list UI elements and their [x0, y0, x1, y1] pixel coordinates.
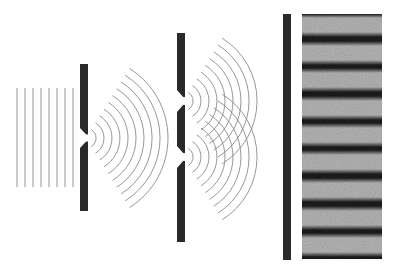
double-slit-barrier: [177, 33, 186, 242]
circular-wavefront: [193, 142, 202, 173]
slit-opening: [177, 97, 186, 105]
circular-wavefront: [91, 130, 96, 147]
interference-fringe-pattern: [302, 14, 382, 259]
single-slit-wavefronts: [91, 69, 168, 208]
circular-wavefront: [193, 86, 202, 117]
slit-opening: [177, 153, 186, 161]
circular-wavefront: [117, 89, 144, 187]
circular-wavefront: [108, 102, 128, 173]
detector-screen-bar: [283, 14, 291, 260]
circular-wavefront: [197, 135, 209, 179]
single-slit-barrier: [80, 64, 89, 211]
circular-wavefront: [188, 93, 193, 110]
double-slit-wavefronts: [188, 38, 257, 220]
circular-wavefront: [218, 45, 249, 157]
diagram-canvas: [0, 0, 393, 274]
circular-wavefront: [121, 82, 152, 194]
caption-watermark: · · · · · · ·: [150, 262, 240, 268]
circular-wavefront: [96, 123, 105, 154]
circular-wavefront: [188, 149, 193, 166]
circular-wavefront: [197, 79, 209, 123]
circular-wavefront: [100, 116, 112, 160]
circular-wavefront: [218, 101, 249, 213]
fringe-panel: [302, 14, 382, 259]
screen-bar: [283, 14, 291, 260]
double-slit-diagram: · · · · · · ·: [0, 0, 393, 274]
slit-opening: [80, 135, 89, 142]
circular-wavefront: [130, 69, 168, 208]
barrier-wall: [177, 33, 185, 242]
plane-waves: [17, 88, 73, 187]
